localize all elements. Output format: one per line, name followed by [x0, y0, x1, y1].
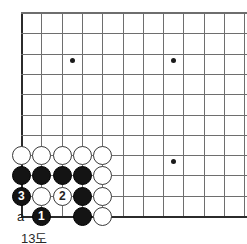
- go-stone-white: [93, 207, 112, 226]
- board-bottom-edge-line: [21, 216, 247, 218]
- go-stone-white-move-2: 2: [53, 187, 72, 206]
- go-stone-black: [73, 207, 92, 226]
- board-vertical-line: [41, 12, 42, 216]
- board-vertical-line: [62, 12, 63, 216]
- go-stone-white: [73, 146, 92, 165]
- go-stone-white: [93, 146, 112, 165]
- board-vertical-line: [224, 12, 225, 216]
- stone-move-number: 3: [18, 190, 24, 202]
- board-vertical-line: [143, 12, 144, 216]
- board-horizontal-line: [21, 12, 247, 13]
- diagram-caption: 13도: [21, 228, 47, 244]
- go-stone-black: [12, 166, 31, 185]
- star-point-upper-right: [171, 58, 176, 63]
- go-stone-black-move-1: 1: [32, 207, 51, 226]
- board-vertical-line: [183, 12, 184, 216]
- board-horizontal-line: [21, 115, 247, 116]
- board-horizontal-line: [21, 54, 247, 55]
- board-vertical-line: [102, 12, 103, 216]
- board-horizontal-line: [21, 33, 247, 34]
- board-vertical-line: [123, 12, 124, 216]
- go-stone-white: [32, 187, 51, 206]
- star-point-lower-right: [171, 159, 176, 164]
- go-stone-black-move-3: 3: [12, 187, 31, 206]
- board-horizontal-line: [21, 135, 247, 136]
- go-stone-white: [93, 166, 112, 185]
- board-point-label-a: a: [17, 210, 24, 223]
- stone-move-number: 2: [59, 190, 65, 202]
- board-horizontal-line: [21, 13, 247, 14]
- board-vertical-line: [204, 12, 205, 216]
- go-board-diagram: a321: [0, 0, 247, 244]
- go-stone-white: [32, 146, 51, 165]
- board-horizontal-line: [21, 94, 247, 95]
- board-vertical-line: [82, 12, 83, 216]
- go-stone-black: [32, 166, 51, 185]
- go-stone-white: [53, 146, 72, 165]
- stone-move-number: 1: [38, 210, 44, 222]
- board-horizontal-line: [21, 74, 247, 75]
- star-point-upper-left: [70, 58, 75, 63]
- board-vertical-line: [244, 12, 245, 216]
- go-stone-black: [73, 187, 92, 206]
- go-stone-black: [73, 166, 92, 185]
- go-stone-white: [93, 187, 112, 206]
- board-vertical-line: [163, 12, 164, 216]
- board-left-edge-line: [21, 12, 23, 216]
- go-stone-black: [53, 166, 72, 185]
- go-stone-white: [12, 146, 31, 165]
